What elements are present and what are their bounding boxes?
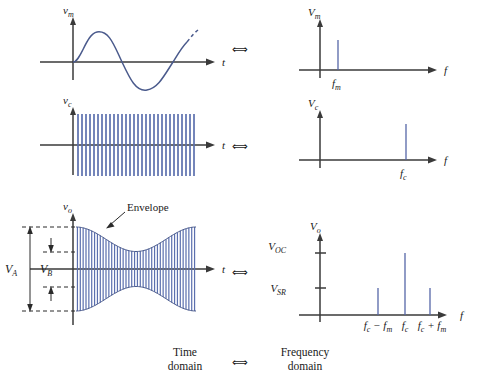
oscillation-stroke [137, 114, 139, 176]
oscillation-stroke [83, 228, 84, 310]
am-modulation-figure: vm t ⟺ Vm fm f v [0, 0, 496, 385]
oscillation-stroke [169, 114, 171, 176]
oscillation-stroke [185, 114, 187, 176]
oscillation-stroke [85, 114, 87, 176]
oscillation-stroke [191, 227, 192, 310]
oscillation-stroke [89, 114, 91, 176]
oscillation-stroke [120, 248, 121, 291]
oscillation-stroke [105, 114, 107, 176]
equiv-arrow-row2: ⟺ [232, 140, 248, 152]
oscillation-stroke [125, 250, 126, 288]
oscillation-stroke [174, 234, 175, 304]
oscillation-stroke [91, 231, 92, 307]
oscillation-stroke [165, 239, 166, 299]
oscillation-stroke [117, 246, 118, 292]
oscillation-stroke [129, 114, 131, 176]
oscillation-stroke [183, 230, 184, 309]
oscillation-stroke [188, 228, 189, 310]
oscillation-stroke [114, 245, 115, 294]
caption-freq-line1: Frequency [281, 346, 330, 359]
oscillation-stroke [189, 114, 191, 176]
oscillation-stroke [80, 227, 81, 310]
oscillation-stroke [151, 248, 152, 291]
equiv-arrow-row1: ⟺ [232, 43, 248, 55]
oscillation-stroke [137, 251, 138, 286]
oscillation-stroke [123, 249, 124, 289]
oscillation-stroke [157, 114, 159, 176]
oscillation-stroke [117, 114, 119, 176]
oscillation-stroke [97, 114, 99, 176]
oscillation-stroke [85, 229, 86, 310]
oscillation-stroke [88, 230, 89, 309]
oscillation-stroke [168, 237, 169, 300]
oscillation-stroke [101, 114, 103, 176]
oscillation-stroke [94, 232, 95, 305]
envelope-annotation-label: Envelope [127, 201, 169, 213]
oscillation-stroke [100, 236, 101, 303]
oscillation-stroke [133, 114, 135, 176]
oscillation-stroke [177, 232, 178, 305]
oscillation-stroke [77, 114, 79, 176]
oscillation-stroke [143, 251, 144, 288]
oscillation-stroke [160, 243, 161, 295]
oscillation-stroke [194, 227, 195, 311]
oscillation-stroke [81, 114, 83, 176]
oscillation-stroke [165, 114, 167, 176]
caption-equiv-symbol-icon: ⟺ [232, 356, 248, 368]
oscillation-stroke [163, 241, 164, 297]
oscillation-stroke [140, 251, 141, 287]
oscillation-stroke [125, 114, 127, 176]
oscillation-stroke [145, 114, 147, 176]
oscillation-stroke [193, 114, 195, 176]
oscillation-stroke [77, 227, 78, 311]
oscillation-stroke [105, 239, 106, 299]
caption-time-line1: Time [173, 346, 197, 358]
oscillation-stroke [149, 114, 151, 176]
oscillation-stroke [103, 237, 104, 300]
oscillation-stroke [185, 229, 186, 310]
oscillation-stroke [97, 234, 98, 304]
oscillation-stroke [171, 236, 172, 303]
oscillation-stroke [154, 246, 155, 292]
caption-freq-line2: domain [288, 360, 323, 372]
oscillation-stroke [128, 251, 129, 288]
oscillation-stroke [180, 231, 181, 307]
oscillation-stroke [173, 114, 175, 176]
caption-time-line2: domain [168, 360, 203, 372]
oscillation-stroke [157, 245, 158, 294]
oscillation-stroke [108, 241, 109, 297]
equiv-symbol-icon-row3: ⟺ [232, 266, 248, 278]
oscillation-stroke [141, 114, 143, 176]
oscillation-stroke [121, 114, 123, 176]
equiv-symbol-icon-row1: ⟺ [232, 43, 248, 55]
oscillation-stroke [131, 251, 132, 287]
oscillation-stroke [148, 249, 149, 289]
oscillation-stroke [113, 114, 115, 176]
oscillation-stroke [177, 114, 179, 176]
oscillation-stroke [111, 243, 112, 295]
equiv-arrow-row3: ⟺ [232, 266, 248, 278]
equiv-symbol-icon-row2: ⟺ [232, 140, 248, 152]
oscillation-stroke [161, 114, 163, 176]
oscillation-stroke [153, 114, 155, 176]
oscillation-stroke [109, 114, 111, 176]
oscillation-stroke [145, 250, 146, 288]
oscillation-stroke [181, 114, 183, 176]
oscillation-stroke [134, 251, 135, 286]
oscillation-stroke [93, 114, 95, 176]
